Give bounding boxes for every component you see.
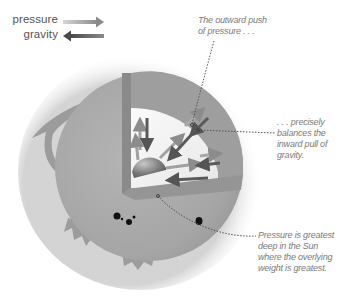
cutaway-wall [122, 73, 131, 194]
hydrostatic-equilibrium-diagram: pressure gravity [0, 0, 346, 295]
caption-outward-push: The outward push of pressure . . . [198, 15, 267, 37]
arrow-right-icon [63, 17, 104, 28]
caption-pressure-greatest: Pressure is greatest deep in the Sun whe… [258, 230, 334, 274]
arrow-left-icon [63, 31, 104, 42]
caption-balances: . . . precisely balances the inward pull… [277, 117, 327, 161]
